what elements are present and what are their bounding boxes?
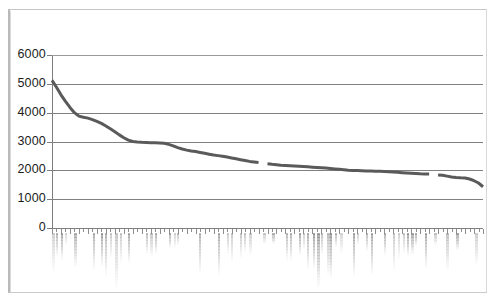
x-axis-tick-mark xyxy=(290,229,291,232)
x-axis-category-label xyxy=(218,233,220,275)
x-axis-tick-mark xyxy=(254,229,255,232)
x-axis-tick-mark xyxy=(83,229,84,232)
x-axis-category-label xyxy=(299,233,301,255)
x-axis-tick-mark xyxy=(263,229,264,232)
y-axis-tick-mark xyxy=(47,84,52,85)
chart-figure: 0100020003000400050006000 xyxy=(0,0,495,300)
y-axis-tick-label: 5000 xyxy=(1,77,46,89)
x-axis-tick-mark xyxy=(272,229,273,232)
y-axis-tick-mark xyxy=(47,113,52,114)
x-axis-category-label xyxy=(244,233,246,252)
x-axis-category-label xyxy=(353,233,355,276)
x-axis-category-label xyxy=(74,233,77,267)
x-axis-category-label xyxy=(61,233,63,260)
y-axis-tick-label: 4000 xyxy=(1,106,46,118)
x-axis-category-label xyxy=(384,233,386,255)
x-axis-category-label xyxy=(240,233,242,258)
x-axis-tick-mark xyxy=(155,229,156,232)
x-axis-category-label xyxy=(120,233,122,263)
x-axis-category-label xyxy=(56,233,58,256)
x-axis-tick-mark xyxy=(182,229,183,232)
x-axis-category-label xyxy=(393,233,395,271)
x-axis-tick-mark xyxy=(137,229,138,232)
x-axis-tick-mark xyxy=(245,229,246,232)
x-axis-category-label xyxy=(434,233,437,245)
x-axis-tick-mark xyxy=(146,229,147,232)
x-axis-tick-mark xyxy=(236,229,237,232)
x-axis-category-label xyxy=(146,233,148,254)
x-axis-category-label xyxy=(371,233,373,275)
x-axis-category-label xyxy=(415,233,417,246)
x-axis-tick-mark xyxy=(74,229,75,232)
x-axis-tick-mark xyxy=(335,229,336,232)
x-axis-tick-mark xyxy=(371,229,372,232)
x-axis-tick-mark xyxy=(461,229,462,232)
x-axis-tick-mark xyxy=(56,229,57,232)
x-axis-tick-mark xyxy=(362,229,363,232)
x-axis-tick-mark xyxy=(398,229,399,232)
x-axis-category-label xyxy=(249,233,252,255)
x-axis-tick-mark xyxy=(119,229,120,232)
x-axis-tick-mark xyxy=(326,229,327,232)
x-axis-tick-mark xyxy=(443,229,444,232)
series-segment xyxy=(52,80,259,162)
x-axis-category-label xyxy=(456,233,459,250)
x-axis-tick-mark xyxy=(227,229,228,232)
x-axis-tick-mark xyxy=(479,229,480,232)
x-axis-category-label xyxy=(227,233,229,254)
x-axis-category-label xyxy=(398,233,400,259)
x-axis-tick-mark xyxy=(164,229,165,232)
x-axis-category-label xyxy=(303,233,305,250)
series-segment xyxy=(268,164,430,174)
x-axis-tick-mark xyxy=(407,229,408,232)
x-axis-category-label xyxy=(330,233,332,278)
x-axis-category-label xyxy=(110,233,112,258)
x-axis-tick-mark xyxy=(200,229,201,232)
y-axis-tick-mark xyxy=(47,199,52,200)
x-axis-category-label xyxy=(357,233,359,245)
x-axis-category-label xyxy=(169,233,171,248)
x-axis-category-label xyxy=(231,233,233,262)
x-axis-category-label xyxy=(128,233,130,263)
y-axis-tick-labels: 0100020003000400050006000 xyxy=(0,0,46,300)
x-axis-category-label xyxy=(65,233,67,245)
y-axis-tick-mark xyxy=(47,170,52,171)
x-axis-category-label xyxy=(174,233,176,248)
x-axis-category-label xyxy=(335,233,337,247)
x-axis-category-label xyxy=(425,233,427,268)
x-axis-tick-mark xyxy=(110,229,111,232)
series-segment xyxy=(438,175,483,187)
x-axis-category-label xyxy=(93,233,95,270)
x-axis-tick-mark xyxy=(218,229,219,232)
data-series-line xyxy=(52,40,487,235)
x-axis-tick-mark xyxy=(317,229,318,232)
x-axis-tick-mark xyxy=(380,229,381,232)
x-axis-tick-mark xyxy=(425,229,426,232)
x-axis-category-label xyxy=(366,233,368,251)
x-axis-tick-mark xyxy=(470,229,471,232)
x-axis-category-label xyxy=(407,233,409,256)
x-axis-category-label xyxy=(307,233,309,269)
x-axis-category-label xyxy=(150,233,153,257)
x-axis-category-label xyxy=(263,233,266,244)
x-axis-category-label xyxy=(290,233,292,261)
x-axis-category-label xyxy=(177,233,179,245)
x-axis-category-labels xyxy=(52,233,483,293)
y-axis-tick-label: 2000 xyxy=(1,163,46,175)
x-axis-tick-mark xyxy=(353,229,354,232)
x-axis-category-label xyxy=(340,233,343,253)
x-axis-tick-mark xyxy=(299,229,300,232)
x-axis-tick-mark xyxy=(483,229,484,234)
x-axis-tick-mark xyxy=(389,229,390,232)
x-axis-category-label xyxy=(52,233,55,272)
x-axis-tick-mark xyxy=(92,229,93,232)
x-axis-category-label xyxy=(286,233,288,260)
x-axis-category-label xyxy=(101,233,103,266)
x-axis-tick-mark xyxy=(128,229,129,232)
x-axis-category-label xyxy=(317,233,320,287)
x-axis-category-label xyxy=(199,233,201,274)
x-axis-category-label xyxy=(403,233,405,253)
y-axis-tick-mark xyxy=(47,55,52,56)
x-axis-tick-mark xyxy=(308,229,309,232)
y-axis-tick-mark xyxy=(47,142,52,143)
